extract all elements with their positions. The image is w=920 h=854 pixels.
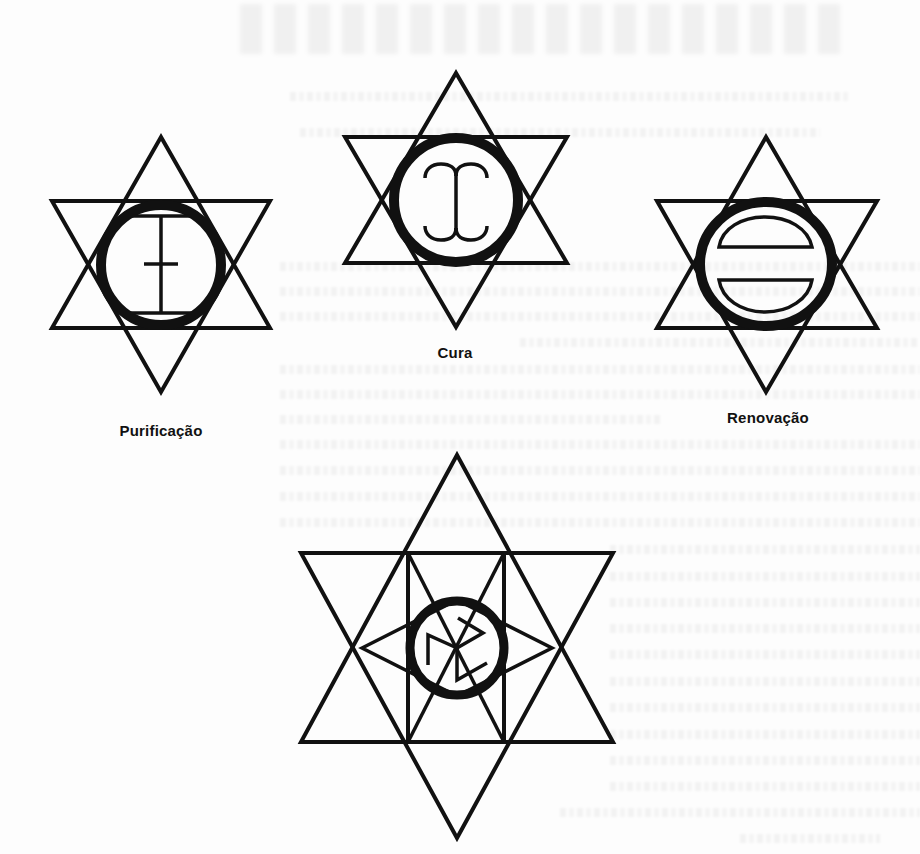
hexagram-down-triangle-icon	[657, 201, 877, 392]
purificacao-label: Purificação	[119, 422, 202, 439]
cura-label: Cura	[438, 344, 473, 361]
lower-half-disc-icon	[719, 280, 812, 312]
cura-symbol	[345, 73, 567, 327]
scanned-page: Purificação Cura Renovação	[0, 0, 920, 854]
cube-rune-symbol	[301, 455, 613, 838]
top-right-curl-icon	[456, 164, 487, 178]
top-left-curl-icon	[425, 164, 456, 178]
renovacao-symbol	[657, 137, 877, 392]
bottom-left-curl-icon	[425, 226, 456, 240]
enclosing-ring-icon	[700, 202, 832, 326]
hexagram-up-triangle-icon	[657, 137, 877, 328]
renovacao-label: Renovação	[727, 409, 809, 426]
upper-half-disc-icon	[719, 217, 812, 247]
bottom-right-curl-icon	[456, 226, 487, 240]
purificacao-symbol	[52, 137, 270, 392]
